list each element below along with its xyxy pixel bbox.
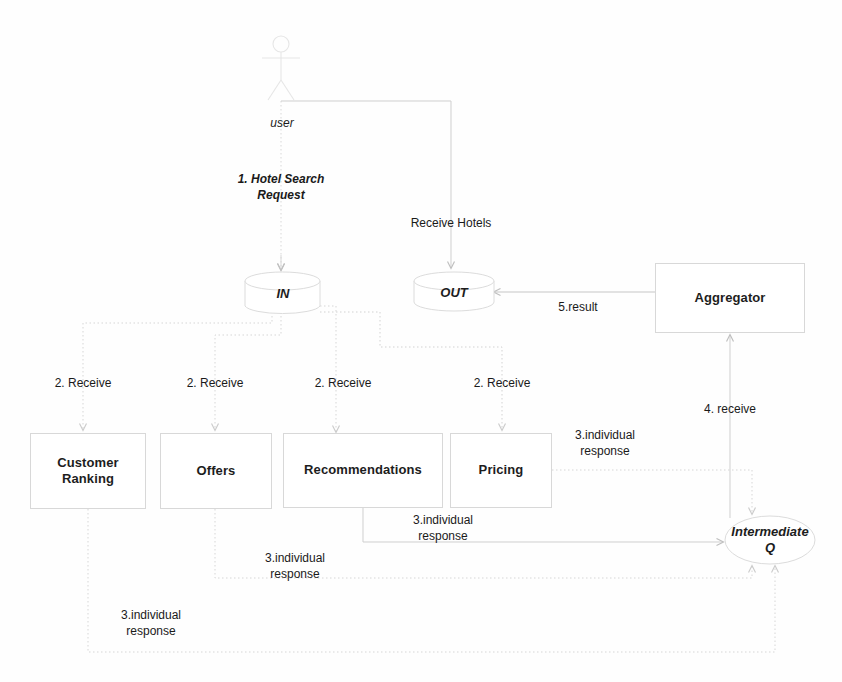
service-box-recommendations[interactable]: Recommendations [283, 433, 443, 508]
service-box-customer-ranking[interactable]: Customer Ranking [30, 433, 146, 509]
service-box-pricing[interactable]: Pricing [450, 433, 552, 508]
aggregator-node[interactable]: Aggregator [655, 263, 805, 333]
intermediate-q-line1: Intermediate [731, 524, 808, 540]
intermediate-q-line2: Q [765, 540, 775, 556]
customer-ranking-line2: Ranking [62, 471, 114, 487]
customer-ranking-line1: Customer [57, 455, 118, 471]
aggregator-label: Aggregator [694, 290, 765, 306]
actor-label: user [255, 116, 309, 130]
offers-label: Offers [197, 463, 236, 479]
connector-layer [0, 0, 842, 682]
in-queue-label: IN [245, 283, 321, 305]
intermediate-q-label: Intermediate Q [722, 518, 818, 562]
out-queue-label: OUT [414, 282, 494, 304]
architecture-diagram: user IN OUT Intermediate Q Aggregator Cu… [0, 0, 842, 682]
service-box-offers[interactable]: Offers [160, 433, 272, 509]
stick-figure-icon [262, 36, 300, 100]
pricing-label: Pricing [479, 462, 524, 478]
recommendations-label: Recommendations [304, 462, 422, 478]
